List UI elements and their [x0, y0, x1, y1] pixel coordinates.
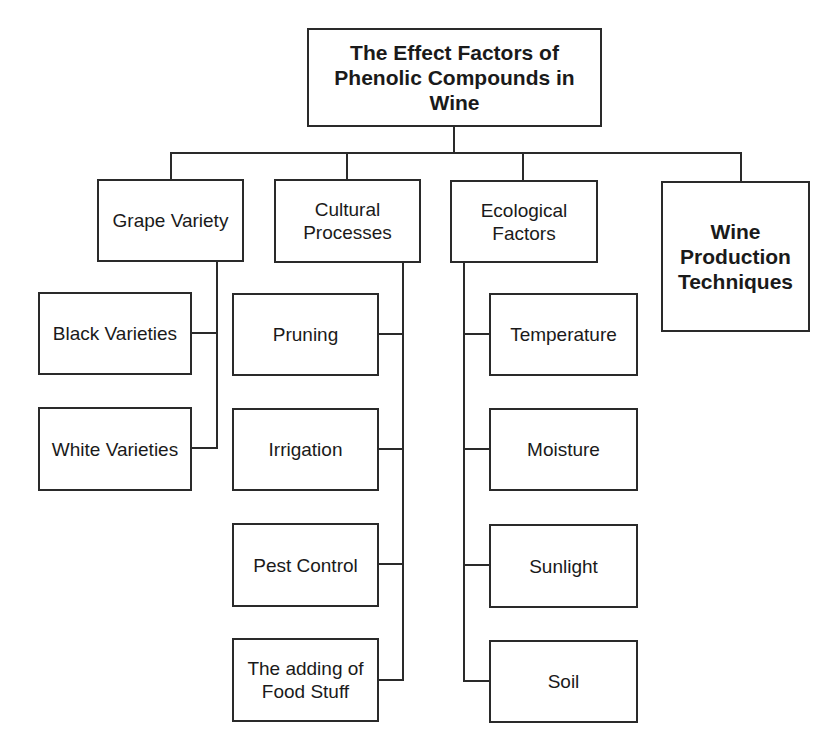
connector-soil [463, 680, 490, 682]
node-label: Temperature [510, 323, 617, 346]
node-white-varieties: White Varieties [38, 407, 192, 491]
connector-white-varieties [190, 447, 218, 449]
node-cultural-processes: Cultural Processes [274, 179, 421, 263]
node-soil: Soil [489, 640, 638, 723]
node-moisture: Moisture [489, 408, 638, 491]
grape-variety-trunk [216, 260, 218, 449]
node-label: Sunlight [529, 555, 598, 578]
connector-food-stuff [377, 679, 404, 681]
cultural-processes-trunk [402, 261, 404, 681]
node-pruning: Pruning [232, 293, 379, 376]
connector-ecological-factors [522, 152, 524, 181]
node-sunlight: Sunlight [489, 524, 638, 608]
connector-irrigation [377, 448, 404, 450]
connector-moisture [463, 448, 490, 450]
node-label: Black Varieties [53, 322, 177, 345]
node-label: Cultural Processes [298, 198, 397, 244]
node-label: Soil [548, 670, 580, 693]
node-adding-food-stuff: The adding of Food Stuff [232, 638, 379, 722]
node-label: Grape Variety [113, 209, 229, 232]
root-stem [453, 126, 455, 154]
node-label: Ecological Factors [474, 199, 574, 245]
node-label: Pruning [273, 323, 339, 346]
node-label: Pest Control [253, 554, 358, 577]
node-irrigation: Irrigation [232, 408, 379, 491]
node-wine-production-techniques: Wine Production Techniques [661, 181, 810, 332]
node-grape-variety: Grape Variety [97, 179, 244, 262]
node-ecological-factors: Ecological Factors [450, 180, 598, 263]
connector-black-varieties [190, 332, 218, 334]
connector-grape-variety [170, 152, 172, 180]
connector-pruning [377, 333, 404, 335]
category-bus [170, 152, 742, 154]
node-label: The adding of Food Stuff [242, 657, 369, 703]
node-label: Irrigation [269, 438, 343, 461]
root-node: The Effect Factors of Phenolic Compounds… [307, 28, 602, 127]
node-label: Moisture [527, 438, 600, 461]
node-temperature: Temperature [489, 293, 638, 376]
node-black-varieties: Black Varieties [38, 292, 192, 375]
connector-wine-production [740, 152, 742, 182]
root-label: The Effect Factors of Phenolic Compounds… [319, 40, 590, 115]
node-label: Wine Production Techniques [667, 219, 804, 294]
node-pest-control: Pest Control [232, 523, 379, 607]
ecological-factors-trunk [463, 261, 465, 682]
node-label: White Varieties [52, 438, 178, 461]
connector-pest-control [377, 563, 404, 565]
connector-cultural-processes [346, 152, 348, 180]
connector-temperature [463, 333, 490, 335]
connector-sunlight [463, 564, 490, 566]
